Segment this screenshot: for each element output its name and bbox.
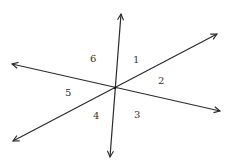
intersecting-lines-diagram: 123456 bbox=[0, 0, 225, 163]
angle-label-4: 4 bbox=[93, 110, 99, 121]
angle-label-5: 5 bbox=[65, 87, 71, 98]
angle-label-6: 6 bbox=[90, 53, 96, 64]
intersection-point bbox=[114, 87, 117, 90]
angle-label-2: 2 bbox=[158, 75, 164, 86]
angle-label-3: 3 bbox=[134, 109, 140, 120]
angle-label-1: 1 bbox=[133, 54, 139, 65]
